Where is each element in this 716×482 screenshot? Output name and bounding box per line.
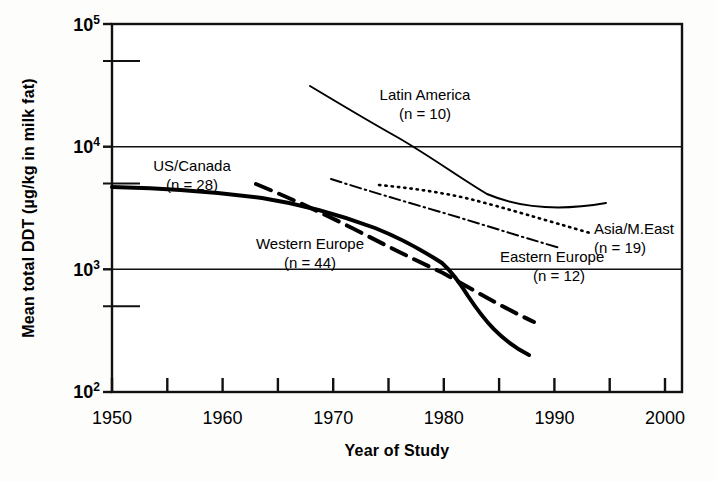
annotation-asia-m-east-label: Asia/M.East: [594, 220, 675, 237]
y-tick-exponent-1e3: 3: [93, 258, 100, 272]
y-tick-label-1e5: 105: [73, 13, 100, 35]
y-tick-mantissa-1e3: 10: [73, 260, 93, 280]
y-tick-exponent-1e4: 4: [93, 135, 100, 149]
chart-figure: 105 104 103 102 1950 1960 1970 1980 1990…: [0, 0, 716, 482]
y-axis-title: Mean total DDT (µg/kg in milk fat): [20, 78, 37, 338]
y-tick-label-1e2: 102: [73, 380, 100, 402]
x-tick-labels: 1950 1960 1970 1980 1990 2000: [92, 408, 685, 428]
plot-area-background: [112, 24, 682, 392]
y-tick-exponent-1e5: 5: [93, 13, 100, 27]
annotation-western-europe-sublabel: (n = 44): [284, 254, 336, 271]
y-tick-mantissa-1e2: 10: [73, 382, 93, 402]
ddt-trend-chart: 105 104 103 102 1950 1960 1970 1980 1990…: [0, 0, 716, 482]
annotation-latin-america-sublabel: (n = 10): [399, 105, 451, 122]
annotation-latin-america-label: Latin America: [380, 86, 472, 103]
x-axis-title: Year of Study: [345, 442, 450, 459]
y-tick-mantissa-1e4: 10: [73, 137, 93, 157]
annotation-eastern-europe-label: Eastern Europe: [500, 248, 604, 265]
x-tick-label-2000: 2000: [645, 408, 685, 428]
x-tick-label-1990: 1990: [534, 408, 574, 428]
x-tick-label-1970: 1970: [313, 408, 353, 428]
y-axis-major-ticks: [103, 24, 112, 392]
y-tick-labels: 105 104 103 102: [73, 13, 100, 402]
y-tick-exponent-1e2: 2: [93, 380, 100, 394]
x-tick-label-1950: 1950: [92, 408, 132, 428]
annotation-us-canada-sublabel: (n = 28): [166, 176, 218, 193]
annotation-us-canada-label: US/Canada: [153, 157, 231, 174]
y-tick-mantissa-1e5: 10: [73, 15, 93, 35]
annotation-western-europe-label: Western Europe: [256, 235, 364, 252]
y-tick-label-1e4: 104: [73, 135, 100, 157]
y-tick-label-1e3: 103: [73, 258, 100, 280]
x-tick-label-1980: 1980: [424, 408, 464, 428]
annotation-eastern-europe-sublabel: (n = 12): [533, 267, 585, 284]
x-tick-label-1960: 1960: [203, 408, 243, 428]
